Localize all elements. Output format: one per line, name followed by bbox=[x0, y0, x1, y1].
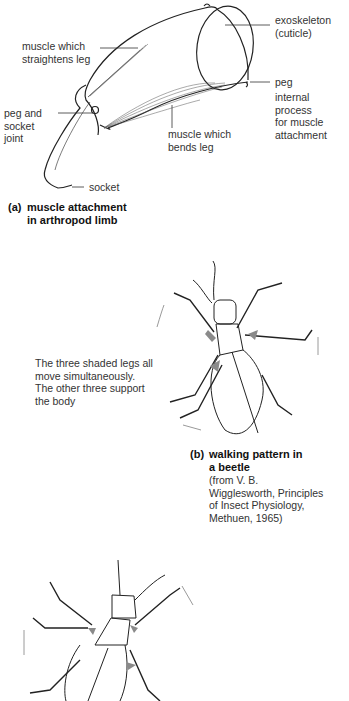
label-internal-process: internal process for muscle attachment bbox=[275, 91, 349, 141]
label-peg: peg bbox=[275, 76, 293, 89]
label-muscle-straightens-leg: muscle which straightens leg bbox=[22, 40, 90, 65]
caption-a: (a)muscle attachment in arthropod limb bbox=[8, 201, 127, 227]
caption-a-letter: (a) bbox=[8, 201, 27, 214]
caption-b-body: walking pattern in a beetle(from V. B. W… bbox=[209, 448, 323, 524]
caption-b: (b)walking pattern in a beetle(from V. B… bbox=[190, 448, 323, 524]
label-exoskeleton: exoskeleton (cuticle) bbox=[275, 14, 331, 39]
walking-note: The three shaded legs all move simultane… bbox=[35, 357, 153, 407]
label-peg-and-socket-joint: peg and socket joint bbox=[4, 107, 42, 145]
label-socket: socket bbox=[89, 181, 119, 194]
caption-a-text: muscle attachment in arthropod limb bbox=[27, 201, 127, 227]
label-muscle-bends-leg: muscle which bends leg bbox=[168, 128, 231, 153]
caption-b-source: (from V. B. Wigglesworth, Principles of … bbox=[209, 474, 323, 524]
caption-b-text: walking pattern in a beetle bbox=[209, 448, 303, 473]
caption-b-letter: (b) bbox=[190, 448, 209, 461]
